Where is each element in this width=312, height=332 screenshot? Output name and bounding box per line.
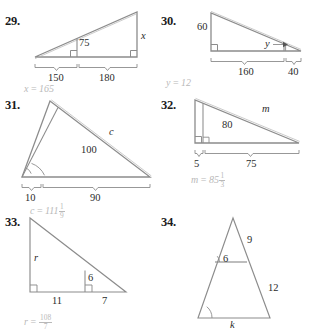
problem-34-base-label-k: k	[230, 319, 235, 330]
worksheet-page: 29. 75 x 150 180 x = 165	[0, 0, 312, 332]
problem-34-upper-right-label-9: 9	[247, 234, 252, 245]
problem-34-figure	[0, 0, 312, 332]
problem-34-lower-right-label-12: 12	[268, 282, 279, 293]
problem-34-inner-segment-label-6: 6	[223, 253, 228, 264]
